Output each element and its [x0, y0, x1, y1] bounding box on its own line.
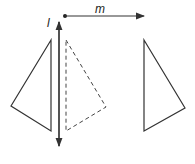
line-l-label: l: [47, 16, 50, 30]
transformation-diagram: l m: [0, 0, 195, 164]
vector-m-label: m: [95, 2, 105, 16]
original-triangle: [11, 40, 51, 131]
reflected-triangle: [66, 40, 106, 131]
translated-triangle: [144, 40, 185, 131]
